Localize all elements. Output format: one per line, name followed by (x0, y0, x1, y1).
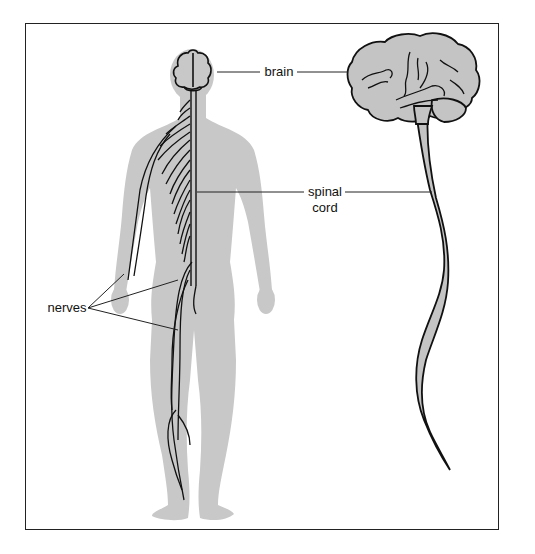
nervous-system-illustration (0, 0, 535, 554)
spinal-cord-label-line2: cord (304, 200, 346, 215)
nerves-label: nerves (46, 300, 88, 315)
spinal-cord-label-line1: spinal (304, 184, 346, 199)
side-brain-icon (348, 33, 480, 470)
brain-label: brain (262, 64, 296, 79)
human-body-silhouette (111, 49, 275, 520)
body-brain-icon (174, 50, 211, 91)
